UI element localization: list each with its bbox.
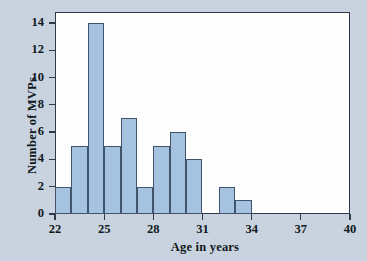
histogram-bar xyxy=(121,118,137,214)
y-tick-mark xyxy=(49,50,55,51)
x-axis-title: Age in years xyxy=(55,240,355,255)
x-tick-mark xyxy=(104,214,105,220)
histogram-bar xyxy=(235,200,251,214)
y-tick-mark xyxy=(49,131,55,132)
x-tick-label: 22 xyxy=(35,222,75,237)
y-tick-label: 6 xyxy=(2,124,44,139)
histogram-bar xyxy=(153,146,169,214)
x-tick-mark xyxy=(300,214,301,220)
y-tick-label: 12 xyxy=(2,42,44,57)
x-tick-mark xyxy=(54,214,55,220)
x-tick-mark xyxy=(153,214,154,220)
histogram-bar xyxy=(170,132,186,214)
y-tick-label: 10 xyxy=(2,70,44,85)
y-tick-mark xyxy=(49,22,55,23)
x-tick-label: 25 xyxy=(84,222,124,237)
y-tick-label: 2 xyxy=(2,179,44,194)
x-tick-label: 28 xyxy=(133,222,173,237)
y-tick-label: 4 xyxy=(2,151,44,166)
histogram-bar xyxy=(104,146,120,214)
plot-area xyxy=(55,12,350,214)
histogram-bar xyxy=(219,187,235,214)
x-tick-label: 34 xyxy=(232,222,272,237)
histogram-bar xyxy=(186,159,202,214)
histogram-bar xyxy=(71,146,87,214)
histogram-bar xyxy=(88,23,104,214)
y-tick-mark xyxy=(49,104,55,105)
x-tick-mark xyxy=(251,214,252,220)
histogram-bar xyxy=(137,187,153,214)
y-tick-mark xyxy=(49,159,55,160)
y-tick-label: 8 xyxy=(2,97,44,112)
x-tick-label: 40 xyxy=(330,222,367,237)
y-tick-label: 0 xyxy=(2,206,44,221)
x-tick-label: 37 xyxy=(281,222,321,237)
x-tick-mark xyxy=(349,214,350,220)
x-tick-mark xyxy=(202,214,203,220)
y-tick-label: 14 xyxy=(2,15,44,30)
y-tick-mark xyxy=(49,77,55,78)
histogram-bar xyxy=(55,187,71,214)
y-tick-mark xyxy=(49,186,55,187)
x-tick-label: 31 xyxy=(183,222,223,237)
histogram-figure: Number of MVPs 02468101214 2225283134374… xyxy=(0,0,367,261)
